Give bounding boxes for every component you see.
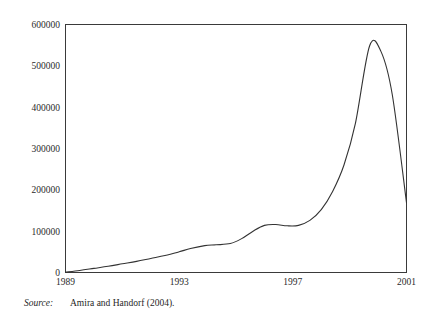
y-tick-label: 500000 bbox=[32, 61, 61, 71]
x-tick-label: 1989 bbox=[56, 277, 75, 287]
x-tick-label: 2001 bbox=[397, 277, 416, 287]
plot-area-frame bbox=[66, 25, 407, 273]
y-tick-label: 200000 bbox=[32, 185, 61, 195]
y-tick-label: 100000 bbox=[32, 227, 61, 237]
x-axis-tick-labels: 1989 1993 1997 2001 bbox=[56, 277, 416, 287]
y-tick-label: 600000 bbox=[32, 20, 61, 30]
source-note: Source:Amira and Handorf (2004). bbox=[24, 298, 424, 308]
source-text: Amira and Handorf (2004). bbox=[70, 298, 174, 308]
x-tick-label: 1993 bbox=[170, 277, 189, 287]
y-axis-tick-labels: 0 100000 200000 300000 400000 500000 600… bbox=[32, 20, 61, 278]
line-chart: 0 100000 200000 300000 400000 500000 600… bbox=[0, 0, 432, 322]
source-label: Source: bbox=[24, 298, 70, 308]
data-series-line bbox=[66, 40, 407, 272]
figure-container: 0 100000 200000 300000 400000 500000 600… bbox=[0, 0, 432, 322]
x-tick-label: 1997 bbox=[283, 277, 302, 287]
y-tick-label: 300000 bbox=[32, 144, 61, 154]
y-tick-label: 400000 bbox=[32, 103, 61, 113]
